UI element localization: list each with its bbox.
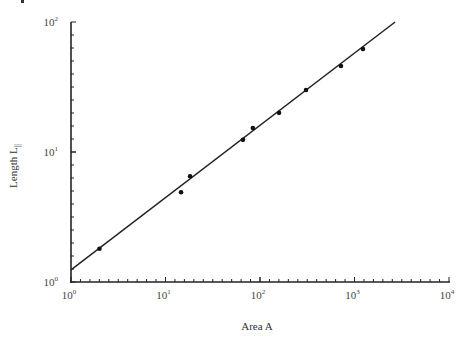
- y-axis-label-text: Length L: [7, 147, 19, 188]
- data-point: [339, 64, 344, 69]
- data-point: [361, 47, 366, 52]
- data-point: [304, 88, 309, 93]
- data-points: [97, 47, 365, 251]
- y-tick-label: 102: [44, 15, 59, 28]
- y-minor-ticks: [71, 22, 76, 282]
- axes: [70, 22, 450, 283]
- x-tick-label: 102: [251, 288, 266, 301]
- data-point: [241, 138, 246, 143]
- x-tick-labels: 100101102103104: [62, 288, 455, 301]
- x-tick-label: 100: [62, 288, 77, 301]
- data-point: [277, 111, 282, 116]
- y-tick-labels: 100101102: [44, 15, 59, 288]
- x-axis-label: Area A: [241, 320, 273, 332]
- x-minor-ticks: [71, 277, 449, 282]
- data-point: [251, 126, 256, 131]
- data-point: [188, 174, 193, 179]
- x-tick-label: 103: [345, 288, 360, 301]
- x-tick-label: 101: [156, 288, 171, 301]
- log-log-chart: 100101102103104 100101102 Area A Length …: [0, 0, 468, 341]
- y-tick-label: 101: [44, 145, 59, 158]
- y-axis-label-subscript: ||: [13, 144, 22, 147]
- cropped-marker: [21, 0, 24, 3]
- y-tick-label: 100: [44, 275, 59, 288]
- fit-line: [71, 22, 395, 270]
- y-axis-label: Length L||: [7, 144, 22, 188]
- data-point: [97, 247, 102, 252]
- x-tick-label: 104: [440, 288, 455, 301]
- data-point: [179, 190, 184, 195]
